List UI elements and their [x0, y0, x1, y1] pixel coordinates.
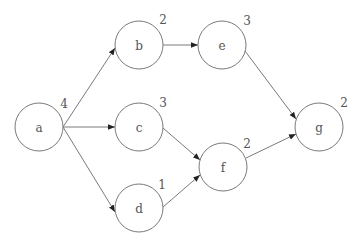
- node-f: f 2: [199, 137, 251, 191]
- edge-e-g: [245, 51, 296, 119]
- edge-c-f: [163, 128, 200, 160]
- node-c-weight: 3: [159, 96, 167, 110]
- node-b-weight: 2: [159, 13, 167, 27]
- node-c-label: c: [136, 121, 143, 135]
- node-g-weight: 2: [340, 96, 348, 110]
- edge-f-g: [246, 134, 296, 158]
- node-b-label: b: [135, 39, 143, 53]
- node-g-label: g: [315, 121, 323, 135]
- node-e-label: e: [218, 39, 225, 53]
- node-a: a 4: [15, 97, 68, 151]
- node-a-weight: 4: [60, 97, 68, 111]
- edges: [63, 45, 296, 212]
- node-e: e 3: [198, 14, 251, 69]
- node-d: d 1: [115, 178, 166, 232]
- edge-d-f: [163, 175, 200, 207]
- node-b: b 2: [115, 13, 167, 69]
- node-d-weight: 1: [158, 178, 166, 192]
- node-f-weight: 2: [243, 137, 251, 151]
- node-a-label: a: [35, 121, 42, 135]
- edge-a-b: [63, 48, 115, 127]
- node-c: c 3: [115, 96, 167, 151]
- edge-a-d: [63, 127, 115, 212]
- node-d-label: d: [135, 202, 143, 216]
- node-e-weight: 3: [243, 14, 251, 28]
- graph-canvas: a 4 b 2 c 3 d 1 e 3 f 2 g 2: [0, 0, 359, 242]
- node-g: g 2: [295, 96, 348, 151]
